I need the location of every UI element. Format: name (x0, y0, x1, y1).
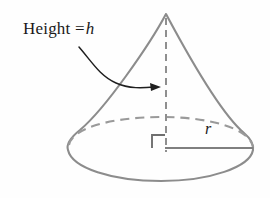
height-label-variable: h (85, 19, 95, 38)
figure-canvas: Height =h r (0, 0, 270, 198)
right-angle-marker (152, 135, 165, 148)
height-leader-arrowhead (150, 83, 161, 91)
height-label: Height =h (23, 19, 94, 39)
height-label-prefix: Height = (23, 19, 85, 38)
base-hidden-arc (69, 117, 253, 147)
radius-label: r (205, 120, 211, 138)
cone-outline (68, 14, 254, 181)
